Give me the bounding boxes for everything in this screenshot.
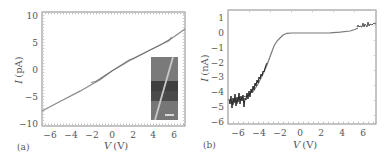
xtick-label: 6 bbox=[360, 128, 366, 138]
xtick-label: 2 bbox=[318, 128, 324, 138]
panel-a: 10 5 0 −5 −10 −6 −4 −2 0 2 4 6 V(V) I(pA… bbox=[13, 11, 185, 152]
iv-curve-noise-b bbox=[229, 63, 267, 108]
ytick-label: −4 bbox=[211, 87, 225, 97]
xtick-label: 4 bbox=[339, 128, 345, 138]
xtick-label: −4 bbox=[64, 130, 78, 140]
ytick-label: 1 bbox=[218, 13, 224, 23]
xtick-label: 6 bbox=[171, 130, 177, 140]
y-axis-label-a: I(pA) bbox=[13, 56, 24, 84]
ytick-label: 10 bbox=[27, 11, 39, 21]
ytick-label: −10 bbox=[19, 119, 38, 129]
figure: 10 5 0 −5 −10 −6 −4 −2 0 2 4 6 V(V) I(pA… bbox=[0, 0, 392, 161]
plot-frame-b bbox=[228, 10, 376, 124]
ytick-label: −5 bbox=[25, 92, 39, 102]
ytick-label: 0 bbox=[218, 28, 224, 38]
x-axis-label-b: V(V) bbox=[293, 139, 317, 150]
iv-curve-b bbox=[253, 28, 358, 92]
panel-label-b: (b) bbox=[203, 140, 216, 150]
xtick-label: 0 bbox=[297, 128, 303, 138]
y-axis-label-b: I(nA) bbox=[199, 54, 210, 83]
xtick-label: 2 bbox=[130, 130, 136, 140]
ytick-label: 5 bbox=[32, 38, 38, 48]
xtick-label: −4 bbox=[252, 128, 266, 138]
xtick-label: −6 bbox=[231, 128, 245, 138]
ytick-label: −2 bbox=[211, 58, 224, 68]
ytick-label: −5 bbox=[211, 102, 225, 112]
panel-b: 1 0 −1 −2 −3 −4 −5 −6 −6 −4 −2 0 2 4 6 V… bbox=[199, 10, 376, 150]
inset-micrograph bbox=[151, 57, 178, 120]
ytick-label: −6 bbox=[211, 117, 225, 127]
ytick-label: −3 bbox=[211, 72, 225, 82]
xtick-label: 4 bbox=[150, 130, 156, 140]
xtick-label: −2 bbox=[85, 130, 98, 140]
ytick-label: −1 bbox=[211, 43, 224, 53]
ytick-label: 0 bbox=[32, 65, 38, 75]
xtick-label: −2 bbox=[273, 128, 286, 138]
xtick-label: −6 bbox=[43, 130, 57, 140]
x-axis-label-a: V(V) bbox=[104, 140, 128, 151]
panel-label-a: (a) bbox=[17, 142, 29, 152]
iv-curve-noise-b3 bbox=[357, 22, 376, 27]
xtick-label: 0 bbox=[109, 130, 115, 140]
